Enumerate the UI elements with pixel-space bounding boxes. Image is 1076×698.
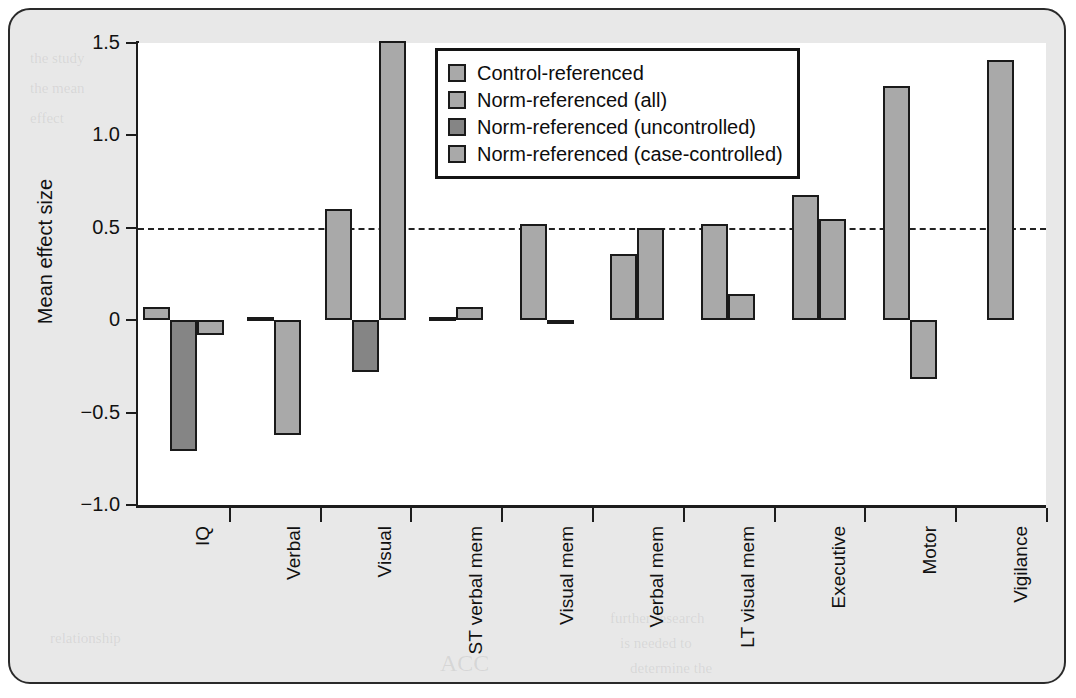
x-tick-mark (410, 508, 412, 522)
bar (274, 320, 301, 435)
x-tick-label: Visual (374, 526, 396, 577)
x-tick-mark (955, 508, 957, 522)
x-tick-mark (864, 508, 866, 522)
bar (701, 224, 728, 320)
legend: Control-referencedNorm-referenced (all)N… (435, 48, 800, 179)
x-tick-label: ST verbal mem (465, 526, 487, 654)
bar (728, 294, 755, 320)
legend-swatch-icon (448, 145, 466, 163)
bar (610, 254, 637, 321)
bar (325, 209, 352, 320)
x-tick-label: Vigilance (1010, 526, 1032, 603)
bar (247, 317, 274, 321)
bleed-text: relationship (50, 630, 121, 647)
bar (170, 320, 197, 451)
x-tick-label: Verbal mem (646, 526, 668, 627)
x-tick-label: Visual mem (556, 526, 578, 625)
bar (637, 228, 664, 320)
x-tick-mark (229, 508, 231, 522)
bar (143, 307, 170, 320)
bar (197, 320, 224, 335)
legend-item-label: Control-referenced (477, 63, 644, 83)
y-axis-title: Mean effect size (34, 122, 57, 382)
bleed-text: is needed to (620, 635, 692, 652)
legend-swatch-icon (448, 91, 466, 109)
x-tick-mark (501, 508, 503, 522)
legend-item: Norm-referenced (all) (448, 86, 783, 113)
legend-swatch-icon (448, 118, 466, 136)
legend-swatch-icon (448, 64, 466, 82)
y-tick-label: 1.5 (50, 32, 120, 52)
bleed-text: the mean (30, 80, 85, 97)
legend-item-label: Norm-referenced (all) (477, 90, 667, 110)
x-tick-label: IQ (192, 526, 214, 546)
bar (379, 41, 406, 320)
x-tick-mark (683, 508, 685, 522)
x-tick-label: Executive (828, 526, 850, 608)
x-tick-label: Verbal (283, 526, 305, 580)
bar (520, 224, 547, 320)
bar (883, 86, 910, 321)
legend-item-label: Norm-referenced (case-controlled) (477, 144, 783, 164)
x-tick-mark (1046, 508, 1048, 522)
bar (429, 317, 456, 321)
legend-item: Norm-referenced (uncontrolled) (448, 113, 783, 140)
y-tick-label: −1.0 (50, 494, 120, 514)
y-tick-label: −0.5 (50, 402, 120, 422)
x-tick-mark (592, 508, 594, 522)
threshold-line-0.5 (138, 228, 1046, 230)
x-tick-mark (320, 508, 322, 522)
x-tick-mark (774, 508, 776, 522)
legend-item: Norm-referenced (case-controlled) (448, 140, 783, 167)
bar (352, 320, 379, 372)
y-tick-label: 0 (50, 309, 120, 329)
bar (987, 60, 1014, 321)
legend-rows: Control-referencedNorm-referenced (all)N… (448, 59, 783, 167)
x-tick-label: Motor (919, 526, 941, 575)
legend-item-label: Norm-referenced (uncontrolled) (477, 117, 756, 137)
y-tick-label: 1.0 (50, 124, 120, 144)
bar (819, 219, 846, 321)
bleed-text: the study (30, 50, 85, 67)
bar (547, 320, 574, 324)
legend-item: Control-referenced (448, 59, 783, 86)
figure-page: the study the mean effect across domains… (0, 0, 1076, 698)
bleed-text: determine the (630, 660, 712, 677)
bar (456, 307, 483, 320)
x-axis-line (136, 505, 1046, 508)
bar (792, 195, 819, 321)
y-tick-label: 0.5 (50, 217, 120, 237)
bar (910, 320, 937, 379)
figure-panel: the study the mean effect across domains… (8, 8, 1066, 684)
x-tick-label: LT visual mem (737, 526, 759, 648)
